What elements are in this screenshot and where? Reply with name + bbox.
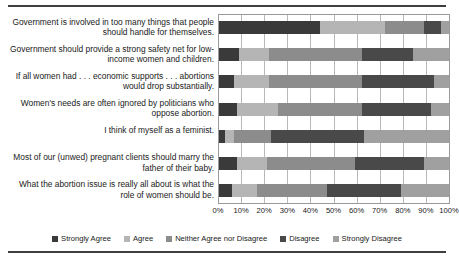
x-tick-label: 30% — [280, 206, 295, 215]
legend-item: Strongly Agree — [52, 234, 111, 243]
x-tick-label: 100% — [439, 206, 458, 215]
legend-label: Neither Agree nor Disagree — [175, 234, 267, 243]
x-tick-label: 60% — [349, 206, 364, 215]
axis-frame — [218, 14, 450, 204]
x-tick-label: 0% — [213, 206, 224, 215]
x-tick-label: 10% — [233, 206, 248, 215]
legend-swatch-icon — [333, 236, 339, 242]
category-label: What the abortion issue is really all ab… — [8, 179, 214, 200]
legend-swatch-icon — [52, 236, 58, 242]
legend-label: Agree — [133, 234, 153, 243]
category-label: I think of myself as a feminist. — [8, 125, 214, 135]
legend-item: Disagree — [280, 234, 319, 243]
legend-item: Neither Agree nor Disagree — [166, 234, 267, 243]
legend-label: Strongly Agree — [61, 234, 111, 243]
chart-legend: Strongly AgreeAgreeNeither Agree nor Dis… — [0, 234, 454, 243]
legend-swatch-icon — [280, 236, 286, 242]
x-axis-tick-labels: 0%10%20%30%40%50%60%70%80%90%100% — [218, 206, 450, 218]
category-label: Government should provide a strong safet… — [8, 44, 214, 65]
category-label: Most of our (unwed) pregnant clients sho… — [8, 152, 214, 173]
legend-item: Strongly Disagree — [333, 234, 402, 243]
legend-label: Strongly Disagree — [342, 234, 402, 243]
category-label-column: Government is involved in too many thing… — [4, 14, 214, 204]
x-tick-label: 90% — [418, 206, 433, 215]
bottom-divider-rule — [8, 251, 446, 253]
legend-swatch-icon — [124, 236, 130, 242]
legend-swatch-icon — [166, 236, 172, 242]
x-tick-label: 20% — [257, 206, 272, 215]
legend-item: Agree — [124, 234, 153, 243]
x-tick-label: 80% — [395, 206, 410, 215]
category-label: Women's needs are often ignored by polit… — [8, 98, 214, 119]
x-tick-label: 70% — [372, 206, 387, 215]
x-tick-label: 50% — [326, 206, 341, 215]
x-tick-label: 40% — [303, 206, 318, 215]
category-label: If all women had . . . economic supports… — [8, 71, 214, 92]
top-divider-rule — [8, 5, 446, 7]
category-label: Government is involved in too many thing… — [8, 17, 214, 38]
plot-area — [218, 14, 450, 204]
legend-label: Disagree — [289, 234, 319, 243]
